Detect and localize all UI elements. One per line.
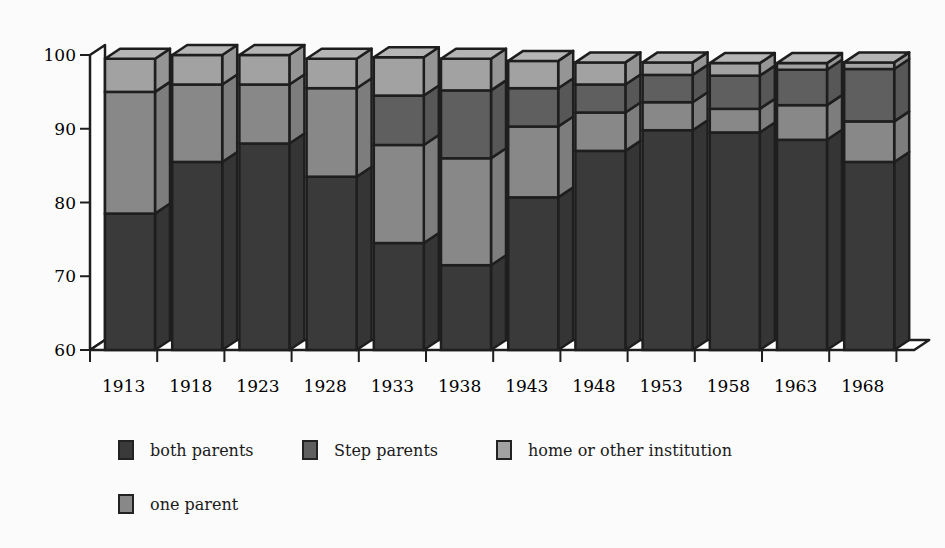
bar-1913-one-parent-side — [155, 82, 170, 214]
x-tick-label-1913: 1913 — [102, 376, 145, 396]
x-tick-label-1943: 1943 — [505, 376, 548, 396]
bar-1923-one-parent-side — [289, 75, 304, 144]
bar-1948-one-parent-front — [575, 113, 625, 151]
bar-1918-both-parents-side — [222, 152, 237, 350]
bar-1928-home-or-other-institution-front — [307, 59, 357, 89]
bar-1933-one-parent-side — [424, 135, 439, 243]
bar-1953-both-parents-side — [693, 120, 708, 350]
bar-1968-step-parents-front — [844, 69, 894, 121]
bar-1953-home-or-other-institution-front — [643, 62, 693, 75]
bar-1968-both-parents-side — [894, 152, 909, 350]
bar-1948-home-or-other-institution-front — [575, 62, 625, 84]
bar-1913-both-parents-side — [155, 204, 170, 350]
bar-1923-one-parent-front — [239, 85, 289, 144]
bar-1923-both-parents-side — [289, 134, 304, 351]
bar-1938-step-parents-front — [441, 90, 491, 158]
bar-1958-one-parent-front — [710, 109, 760, 133]
stacked-bar-chart: 6070809010019131918192319281933193819431… — [0, 0, 945, 548]
bar-1963-one-parent-front — [777, 105, 827, 140]
y-tick-label: 70 — [54, 266, 76, 286]
bar-1913-both-parents-front — [105, 214, 155, 350]
bar-1953-step-parents-front — [643, 75, 693, 102]
bar-1923-both-parents-front — [239, 144, 289, 351]
bar-1963-step-parents-front — [777, 70, 827, 105]
legend-swatch-step-parents — [302, 440, 318, 460]
bar-1953-both-parents-front — [643, 130, 693, 350]
y-tick-label: 100 — [44, 45, 76, 65]
bar-1918-both-parents-front — [172, 162, 222, 350]
bar-1928-one-parent-side — [357, 78, 372, 177]
bar-1933-one-parent-front — [374, 145, 424, 243]
bar-1958-step-parents-front — [710, 76, 760, 109]
bar-1943-both-parents-front — [508, 197, 558, 350]
bar-1948-both-parents-front — [575, 151, 625, 350]
x-tick-label-1968: 1968 — [841, 376, 884, 396]
bar-1938-both-parents-front — [441, 265, 491, 350]
bar-1943-home-or-other-institution-front — [508, 61, 558, 88]
bar-1943-both-parents-side — [558, 187, 573, 350]
bar-1958-home-or-other-institution-front — [710, 63, 760, 76]
legend-swatch-one-parent — [118, 494, 134, 514]
bar-1918-one-parent-front — [172, 85, 222, 162]
legend-label: one parent — [150, 495, 238, 514]
legend-item-both-parents: both parents — [118, 440, 254, 460]
bar-1933-both-parents-side — [424, 233, 439, 350]
bar-1913-home-or-other-institution-front — [105, 59, 155, 92]
bar-1943-one-parent-front — [508, 127, 558, 198]
bar-1938-one-parent-side — [491, 148, 506, 265]
legend-item-one-parent: one parent — [118, 494, 238, 514]
x-tick-label-1933: 1933 — [371, 376, 414, 396]
bar-1938-one-parent-front — [441, 158, 491, 265]
bar-1938-step-parents-side — [491, 80, 506, 158]
bar-1948-step-parents-front — [575, 85, 625, 113]
bar-1928-both-parents-side — [357, 167, 372, 350]
legend-swatch-home — [496, 440, 512, 460]
bar-1933-step-parents-front — [374, 96, 424, 145]
legend-swatch-both-parents — [118, 440, 134, 460]
bar-1938-home-or-other-institution-front — [441, 59, 491, 91]
bar-1953-one-parent-front — [643, 102, 693, 130]
bar-1963-both-parents-front — [777, 140, 827, 350]
x-tick-label-1948: 1948 — [572, 376, 615, 396]
legend-item-home-or-institution: home or other institution — [496, 440, 732, 460]
left-wall — [90, 45, 105, 350]
y-tick-label: 60 — [54, 340, 76, 360]
legend-item-step-parents: Step parents — [302, 440, 438, 460]
bar-1958-both-parents-side — [760, 122, 775, 350]
bar-1958-both-parents-front — [710, 132, 760, 350]
x-tick-label-1963: 1963 — [774, 376, 817, 396]
legend-label: both parents — [150, 441, 254, 460]
bar-1963-both-parents-side — [827, 130, 842, 350]
bar-1968-both-parents-front — [844, 162, 894, 350]
x-tick-label-1958: 1958 — [707, 376, 750, 396]
bar-1928-both-parents-front — [307, 177, 357, 350]
bar-1918-home-or-other-institution-front — [172, 55, 222, 85]
legend-label: Step parents — [334, 441, 438, 460]
bar-1938-both-parents-side — [491, 255, 506, 350]
bar-1923-home-or-other-institution-front — [239, 55, 289, 85]
x-tick-label-1938: 1938 — [438, 376, 481, 396]
bar-1933-home-or-other-institution-front — [374, 57, 424, 95]
x-tick-label-1953: 1953 — [640, 376, 683, 396]
y-tick-label: 90 — [54, 119, 76, 139]
bar-1943-one-parent-side — [558, 117, 573, 198]
x-tick-label-1918: 1918 — [169, 376, 212, 396]
bar-1928-one-parent-front — [307, 88, 357, 177]
bar-1968-one-parent-front — [844, 121, 894, 162]
bar-1943-step-parents-front — [508, 88, 558, 126]
legend-label: home or other institution — [528, 441, 732, 460]
x-tick-label-1923: 1923 — [236, 376, 279, 396]
y-tick-label: 80 — [54, 193, 76, 213]
bar-1913-one-parent-front — [105, 92, 155, 214]
bar-1948-both-parents-side — [625, 141, 640, 350]
x-tick-label-1928: 1928 — [304, 376, 347, 396]
bar-1918-one-parent-side — [222, 75, 237, 162]
bar-1933-both-parents-front — [374, 243, 424, 350]
